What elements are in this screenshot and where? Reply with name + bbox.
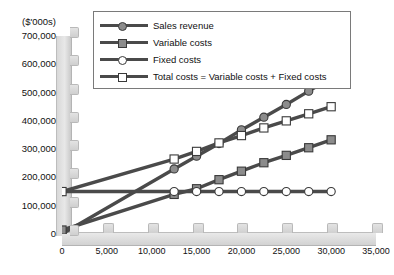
x-axis-tick bbox=[327, 223, 338, 233]
legend-label: Total costs = Variable costs + Fixed cos… bbox=[153, 71, 327, 82]
x-axis-tick-label: 0 bbox=[59, 246, 64, 256]
data-point-marker bbox=[192, 187, 200, 195]
x-axis-tick bbox=[193, 223, 204, 233]
legend-item: Sales revenue bbox=[100, 17, 344, 34]
y-axis-tick-label: 100,000 bbox=[4, 200, 56, 211]
legend-square-icon bbox=[118, 73, 127, 82]
x-axis-tick-label: 20,000 bbox=[228, 246, 256, 256]
data-point-marker bbox=[327, 103, 335, 111]
x-axis-tick bbox=[237, 223, 248, 233]
y-axis-tick bbox=[70, 55, 79, 66]
legend-circle-icon bbox=[118, 22, 127, 31]
x-axis-tick bbox=[372, 223, 383, 233]
y-axis-tick-label: 600,000 bbox=[4, 58, 56, 69]
legend-item: Variable costs bbox=[100, 34, 344, 51]
y-axis-tick-label: 200,000 bbox=[4, 171, 56, 182]
data-point-marker bbox=[282, 117, 290, 125]
data-point-marker bbox=[215, 139, 223, 147]
data-point-marker bbox=[215, 187, 223, 195]
legend-item: Total costs = Variable costs + Fixed cos… bbox=[100, 68, 344, 85]
legend-marker-key bbox=[100, 71, 148, 83]
legend-label: Variable costs bbox=[153, 37, 212, 48]
data-series bbox=[62, 103, 335, 196]
data-point-marker bbox=[237, 131, 245, 139]
y-axis-tick-label: 0 bbox=[4, 228, 56, 239]
y-axis-tick-label: 400,000 bbox=[4, 115, 56, 126]
data-point-marker bbox=[62, 226, 66, 234]
data-point-marker bbox=[170, 187, 178, 195]
legend-item: Fixed costs bbox=[100, 51, 344, 68]
data-point-marker bbox=[62, 187, 66, 195]
y-axis-unit-label: ($'000s) bbox=[4, 16, 56, 27]
break-even-chart: ($'000s) 0100,000200,000300,000400,00050… bbox=[0, 0, 394, 275]
data-point-marker bbox=[260, 124, 268, 132]
data-point-marker bbox=[305, 187, 313, 195]
legend-circle-icon bbox=[118, 56, 127, 65]
y-axis-tick bbox=[70, 27, 79, 38]
legend-marker-key bbox=[100, 20, 148, 32]
legend-label: Sales revenue bbox=[153, 20, 214, 31]
legend-square-icon bbox=[118, 39, 127, 48]
data-point-marker bbox=[282, 187, 290, 195]
y-axis-tick bbox=[70, 197, 79, 208]
y-axis-tick-label: 500,000 bbox=[4, 87, 56, 98]
y-axis-tick bbox=[70, 84, 79, 95]
data-point-marker bbox=[170, 155, 178, 163]
data-point-marker bbox=[327, 136, 335, 144]
data-point-marker bbox=[260, 159, 268, 167]
y-axis-tick bbox=[70, 225, 79, 236]
legend-label: Fixed costs bbox=[153, 54, 201, 65]
x-axis-tick-label: 5,000 bbox=[96, 246, 119, 256]
y-axis-tick bbox=[70, 112, 79, 123]
data-series bbox=[62, 187, 335, 195]
x-axis-tick-label: 30,000 bbox=[317, 246, 345, 256]
data-point-marker bbox=[237, 167, 245, 175]
legend-marker-key bbox=[100, 37, 148, 49]
y-axis-tick bbox=[70, 140, 79, 151]
y-axis-labels: ($'000s) 0100,000200,000300,000400,00050… bbox=[0, 0, 56, 275]
data-point-marker bbox=[192, 147, 200, 155]
data-point-marker bbox=[260, 113, 268, 121]
data-point-marker bbox=[282, 151, 290, 159]
x-axis-tick-label: 35,000 bbox=[362, 246, 390, 256]
y-axis-tick bbox=[70, 168, 79, 179]
chart-legend: Sales revenueVariable costsFixed costsTo… bbox=[93, 11, 351, 89]
data-point-marker bbox=[305, 144, 313, 152]
x-axis-tick-label: 15,000 bbox=[183, 246, 211, 256]
x-axis-tick-label: 25,000 bbox=[273, 246, 301, 256]
data-point-marker bbox=[237, 187, 245, 195]
x-axis-tick bbox=[148, 223, 159, 233]
y-axis-tick-label: 300,000 bbox=[4, 143, 56, 154]
y-axis-tick-label: 700,000 bbox=[4, 30, 56, 41]
x-axis-tick bbox=[282, 223, 293, 233]
data-point-marker bbox=[327, 187, 335, 195]
x-axis-band bbox=[62, 232, 376, 246]
data-point-marker bbox=[305, 110, 313, 118]
data-point-marker bbox=[170, 165, 178, 173]
legend-marker-key bbox=[100, 54, 148, 66]
x-axis-tick bbox=[103, 223, 114, 233]
data-point-marker bbox=[215, 176, 223, 184]
data-point-marker bbox=[282, 100, 290, 108]
data-point-marker bbox=[260, 187, 268, 195]
x-axis-tick-label: 10,000 bbox=[138, 246, 166, 256]
